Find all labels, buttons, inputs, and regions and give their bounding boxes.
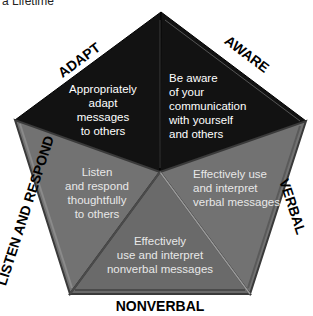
edge-label-verbal: VERBAL (276, 177, 309, 237)
svg-text:communication: communication (169, 100, 246, 112)
svg-text:thoughtfully: thoughtfully (68, 194, 127, 206)
svg-text:verbal messages: verbal messages (193, 196, 280, 208)
svg-text:and interpret: and interpret (193, 182, 258, 194)
svg-text:adapt: adapt (89, 97, 119, 109)
svg-text:Effectively use: Effectively use (193, 168, 267, 180)
svg-text:use and interpret: use and interpret (117, 249, 204, 261)
svg-text:Listen: Listen (82, 166, 113, 178)
svg-text:with yourself: with yourself (168, 114, 234, 126)
svg-text:and respond: and respond (65, 180, 129, 192)
svg-text:to others: to others (75, 208, 120, 220)
svg-text:and others: and others (169, 128, 224, 140)
caption: a Lifetime (2, 0, 54, 8)
communication-pentagon-diagram: a Lifetime Appropriately adapt messages … (0, 0, 313, 316)
svg-text:Effectively: Effectively (134, 235, 186, 247)
svg-text:to others: to others (81, 125, 126, 137)
svg-text:of your: of your (169, 86, 204, 98)
svg-text:Be aware: Be aware (169, 72, 218, 84)
svg-text:nonverbal messages: nonverbal messages (107, 263, 213, 275)
svg-text:messages: messages (77, 111, 130, 123)
edge-label-nonverbal: NONVERBAL (116, 298, 205, 314)
svg-text:Appropriately: Appropriately (69, 83, 137, 95)
